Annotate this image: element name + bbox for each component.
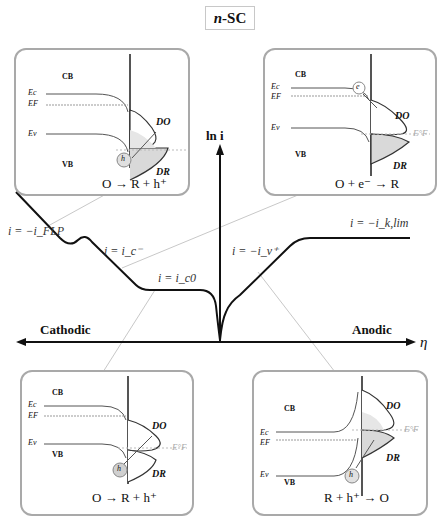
- ec-label: Ec: [28, 88, 36, 97]
- label-i-klim: i = −i_k,lim: [350, 216, 409, 231]
- cb-label: CB: [52, 388, 63, 397]
- label-i-c0: i = i_c0: [158, 271, 196, 286]
- vb-label: VB: [284, 478, 295, 487]
- ef-label: EF: [28, 411, 38, 420]
- redox-level-label: E°F: [413, 128, 428, 138]
- electron-icon: e: [356, 82, 360, 91]
- dr-label: DR: [152, 468, 166, 479]
- panel-top-left: CB Ec EF Ev VB DO DR h O → R + h⁺: [14, 48, 190, 196]
- ec-label: Ec: [260, 428, 268, 437]
- cb-label: CB: [62, 72, 73, 81]
- ef-label: EF: [28, 99, 38, 108]
- x-axis-label: η: [420, 334, 427, 351]
- vb-label: VB: [295, 150, 306, 159]
- vb-label: VB: [52, 450, 63, 459]
- cb-label: CB: [295, 70, 306, 79]
- ef-label: EF: [271, 92, 281, 101]
- label-i-v-plus: i = −i_v⁺: [232, 244, 278, 259]
- panel-bottom-left: CB Ec EF Ev VB DO DR E°F h O → R + h⁺: [20, 370, 194, 516]
- cathodic-label: Cathodic: [40, 322, 91, 338]
- ev-label: Ev: [271, 123, 279, 132]
- dr-label: DR: [393, 160, 407, 171]
- cb-label: CB: [284, 404, 295, 413]
- y-axis-label: ln i: [206, 128, 224, 144]
- redox-level-label: E°F: [404, 424, 419, 434]
- hole-icon: h: [121, 154, 125, 163]
- hole-icon: h: [117, 464, 121, 473]
- ec-label: Ec: [28, 400, 36, 409]
- y-axis-label-text: ln i: [206, 128, 224, 143]
- reaction-label: O → R + h⁺: [92, 490, 157, 506]
- do-label: DO: [395, 110, 409, 121]
- do-label: DO: [386, 400, 400, 411]
- current-curve: [16, 192, 410, 340]
- panel-bottom-right: CB Ec EF Ev VB DO DR E°F h R + h⁺ → O: [252, 370, 428, 516]
- hole-icon: h: [349, 470, 353, 479]
- redox-level-label: E°F: [172, 442, 187, 452]
- reaction-label: O → R + h⁺: [102, 176, 167, 192]
- reaction-label: R + h⁺ → O: [324, 490, 389, 506]
- label-i-c-minus: i = i_c⁻: [104, 244, 142, 259]
- reaction-label: O + e⁻ → R: [335, 176, 399, 192]
- x-axis-left-arrow: [16, 338, 26, 346]
- vb-label: VB: [62, 160, 73, 169]
- dr-label: DR: [386, 452, 400, 463]
- do-label: DO: [152, 420, 166, 431]
- ec-label: Ec: [271, 82, 279, 91]
- ev-label: Ev: [260, 470, 268, 479]
- x-axis-right-arrow: [406, 338, 416, 346]
- ev-label: Ev: [28, 438, 36, 447]
- do-label: DO: [156, 116, 170, 127]
- anodic-label: Anodic: [352, 322, 392, 338]
- ef-label: EF: [260, 438, 270, 447]
- band-diagram-top-right: [265, 50, 435, 194]
- panel-top-right: CB Ec EF Ev VB DO DR E°F e O + e⁻ → R: [263, 48, 437, 196]
- y-axis-arrow: [216, 144, 224, 155]
- label-i-flp: i = −i_FLP: [8, 224, 64, 239]
- ev-label: Ev: [28, 129, 36, 138]
